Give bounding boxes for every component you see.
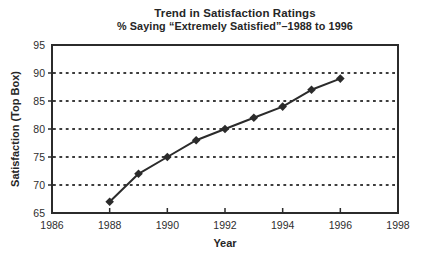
x-axis-label: Year	[52, 237, 398, 249]
x-tick-label-1986: 1986	[40, 219, 64, 231]
data-point-1995	[307, 86, 316, 95]
satisfaction-trend-figure: Trend in Satisfaction Ratings % Saying “…	[0, 0, 425, 264]
data-point-1990	[163, 153, 172, 162]
data-point-1991	[192, 136, 201, 145]
y-tick-label-90: 90	[33, 67, 45, 79]
x-tick-label-1992: 1992	[213, 219, 237, 231]
data-point-1994	[278, 102, 287, 111]
y-tick-label-65: 65	[33, 207, 45, 219]
x-tick-label-1998: 1998	[386, 219, 410, 231]
x-tick-label-1990: 1990	[156, 219, 180, 231]
y-tick-label-70: 70	[33, 179, 45, 191]
trend-line	[110, 79, 341, 202]
x-tick-label-1988: 1988	[98, 219, 122, 231]
x-tick-label-1994: 1994	[271, 219, 295, 231]
y-tick-label-95: 95	[33, 39, 45, 51]
data-point-1993	[250, 114, 259, 123]
x-tick-label-1996: 1996	[329, 219, 353, 231]
data-point-1992	[221, 125, 230, 134]
y-tick-label-75: 75	[33, 151, 45, 163]
y-tick-label-85: 85	[33, 95, 45, 107]
data-point-1996	[336, 74, 345, 83]
chart-svg: 6570758085909519861988199019921994199619…	[0, 0, 425, 264]
y-tick-label-80: 80	[33, 123, 45, 135]
